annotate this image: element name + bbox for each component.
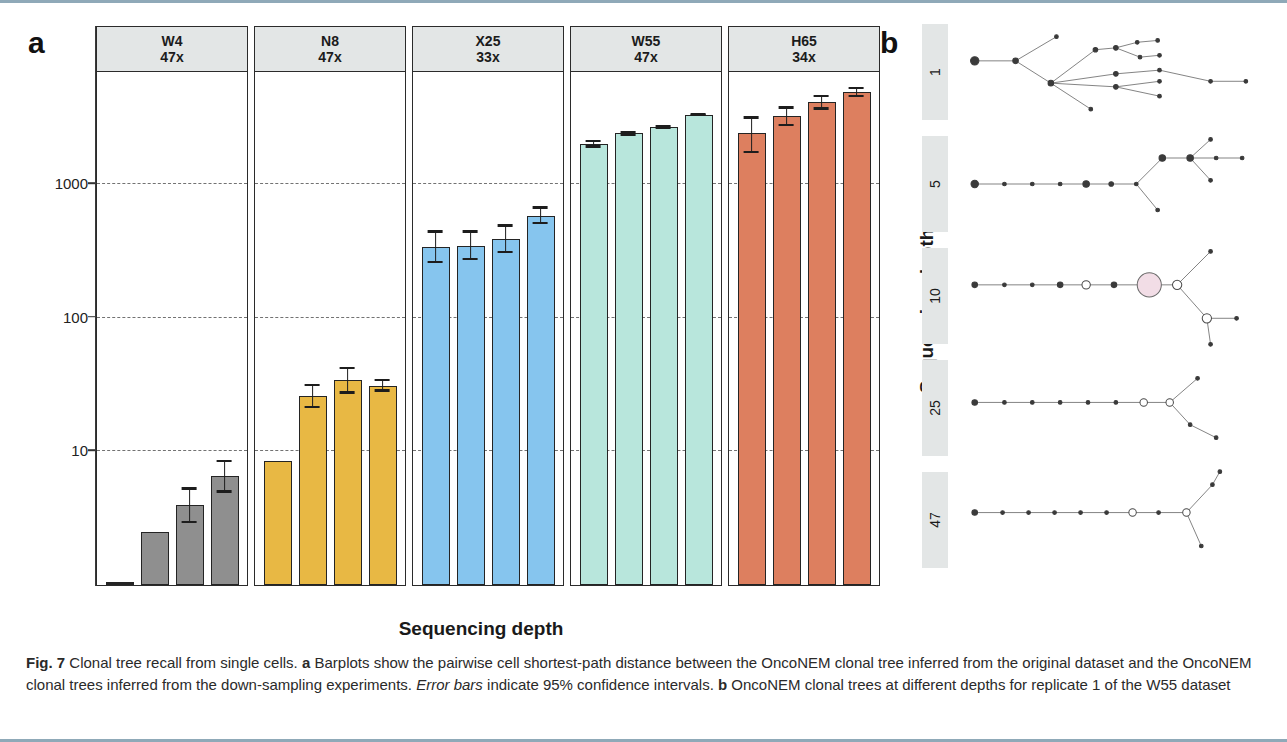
tree-node[interactable] [1057, 282, 1063, 288]
tree-node[interactable] [1214, 156, 1218, 160]
bar[interactable] [369, 386, 397, 585]
tree-node[interactable] [1003, 283, 1007, 287]
bar[interactable] [492, 239, 520, 585]
tree-node[interactable] [1013, 58, 1019, 64]
y-axis-tick-labels: 101001000 [38, 0, 88, 650]
tree-node[interactable] [1156, 39, 1160, 43]
tree-node[interactable] [1055, 35, 1059, 39]
tree-node[interactable] [1158, 94, 1162, 98]
tree-node[interactable] [1048, 80, 1054, 86]
tree-node[interactable] [1138, 55, 1142, 59]
tree-edge [1051, 83, 1091, 109]
tree-node[interactable] [1027, 511, 1031, 515]
tree-node[interactable] [1058, 401, 1062, 405]
bar[interactable] [650, 127, 678, 585]
tree-node[interactable] [1134, 182, 1138, 186]
tree-node[interactable] [1196, 376, 1200, 380]
tree-node[interactable] [1137, 273, 1161, 297]
tree-node[interactable] [1240, 156, 1244, 160]
tree-node[interactable] [1003, 401, 1007, 405]
tree-node[interactable] [1209, 138, 1213, 142]
x-axis-ticks: 251051 [571, 585, 721, 586]
bar-slot [299, 72, 327, 585]
x-tick-mark [310, 585, 312, 586]
tree-node[interactable] [1089, 107, 1093, 111]
bar[interactable] [264, 461, 292, 585]
bar[interactable] [580, 144, 608, 585]
tree-node[interactable] [1159, 155, 1166, 162]
tree-node[interactable] [1105, 511, 1109, 515]
tree-node[interactable] [1058, 182, 1062, 186]
tree-node[interactable] [1218, 470, 1222, 474]
tree-node[interactable] [1086, 401, 1090, 405]
bar[interactable] [422, 247, 450, 585]
tree-node[interactable] [1209, 342, 1213, 346]
tree-node[interactable] [1211, 483, 1215, 487]
tree-node[interactable] [1183, 509, 1190, 516]
tree-node[interactable] [1140, 399, 1147, 406]
tree-node[interactable] [1202, 314, 1211, 323]
tree-node[interactable] [1003, 182, 1007, 186]
tree-node[interactable] [1187, 155, 1194, 162]
tree-node[interactable] [1111, 282, 1117, 288]
tree-node[interactable] [1173, 280, 1182, 289]
tree-node[interactable] [1166, 399, 1173, 406]
tree-edge [1190, 158, 1210, 180]
tree-node[interactable] [1209, 178, 1213, 182]
tree-node[interactable] [1157, 511, 1161, 515]
tree-node[interactable] [1083, 181, 1090, 188]
tree-node[interactable] [972, 510, 978, 516]
tree-node[interactable] [1114, 401, 1118, 405]
facet-w55: W5547x251051 [570, 26, 722, 586]
bar[interactable] [738, 133, 766, 585]
tree-node[interactable] [1158, 68, 1162, 72]
bar[interactable] [457, 246, 485, 585]
tree-node[interactable] [1209, 250, 1213, 254]
tree-node[interactable] [972, 282, 978, 288]
bar[interactable] [299, 396, 327, 585]
tree-node[interactable] [1158, 53, 1162, 57]
tree-node[interactable] [1188, 423, 1192, 427]
bar[interactable] [527, 216, 555, 585]
tree-node[interactable] [1156, 208, 1160, 212]
tree-node[interactable] [1082, 281, 1090, 289]
bar[interactable] [843, 92, 871, 585]
tree-node[interactable] [971, 57, 979, 65]
x-axis-ticks: 251051 [729, 585, 879, 586]
tree-node[interactable] [1214, 436, 1218, 440]
facet-plot-area: 251051 [570, 72, 722, 586]
tree-node[interactable] [1001, 511, 1005, 515]
tree-node[interactable] [1235, 316, 1239, 320]
tree-node[interactable] [1129, 509, 1136, 516]
tree-node[interactable] [1114, 72, 1119, 77]
x-tick-mark [784, 585, 786, 586]
bar[interactable] [773, 116, 801, 585]
tree-node[interactable] [972, 400, 978, 406]
x-tick-mark [273, 585, 275, 586]
tree-node[interactable] [1199, 544, 1203, 548]
tree-node[interactable] [1053, 511, 1057, 515]
tree-node[interactable] [1079, 511, 1083, 515]
facet-dataset-name: W55 [632, 33, 661, 49]
bar[interactable] [808, 102, 836, 585]
tree-node[interactable] [1030, 401, 1034, 405]
tree-node[interactable] [971, 180, 978, 187]
tree-node[interactable] [1209, 79, 1213, 83]
bar-slot [580, 72, 608, 585]
tree-node[interactable] [1244, 79, 1248, 83]
tree-node[interactable] [1109, 182, 1114, 187]
bar[interactable] [141, 532, 169, 585]
tree-node[interactable] [1114, 46, 1119, 51]
tree-node[interactable] [1030, 283, 1034, 287]
tree-edge [1051, 83, 1116, 87]
bar-slot [492, 72, 520, 585]
tree-node[interactable] [1093, 47, 1098, 52]
tree-node[interactable] [1135, 40, 1139, 44]
tree-node[interactable] [1158, 79, 1162, 83]
bar[interactable] [334, 380, 362, 585]
bar[interactable] [615, 133, 643, 585]
bar[interactable] [685, 115, 713, 585]
tree-node[interactable] [1114, 85, 1119, 90]
tree-node[interactable] [1030, 182, 1034, 186]
facet-depth-label: 33x [476, 49, 499, 65]
